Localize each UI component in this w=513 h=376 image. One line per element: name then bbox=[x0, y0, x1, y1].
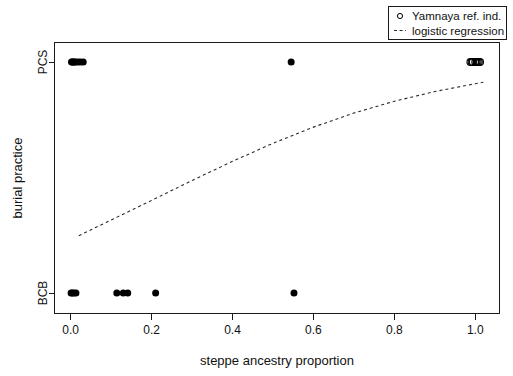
data-point bbox=[290, 290, 297, 297]
legend: Yamnaya ref. ind. logistic regression bbox=[389, 7, 507, 40]
logistic-regression-curve bbox=[79, 82, 484, 235]
data-point bbox=[80, 59, 87, 66]
data-point bbox=[124, 290, 131, 297]
x-axis-title: steppe ancestry proportion bbox=[200, 353, 354, 368]
x-tick-label: 0.0 bbox=[62, 323, 79, 337]
scatter-plot: 0.00.20.40.60.81.0 BCBPCS steppe ancestr… bbox=[0, 0, 513, 376]
x-tick-label: 1.0 bbox=[467, 323, 484, 337]
y-tick-label: PCS bbox=[36, 50, 50, 75]
x-axis-title-text: steppe ancestry proportion bbox=[200, 353, 354, 368]
yamnaya-reference-points bbox=[467, 59, 484, 66]
data-point bbox=[72, 290, 79, 297]
x-axis-ticks: 0.00.20.40.60.81.0 bbox=[62, 314, 484, 337]
data-point bbox=[288, 59, 295, 66]
x-tick-label: 0.8 bbox=[386, 323, 403, 337]
figure-container: 0.00.20.40.60.81.0 BCBPCS steppe ancestr… bbox=[0, 0, 513, 376]
x-tick-label: 0.2 bbox=[143, 323, 160, 337]
data-point bbox=[113, 290, 120, 297]
y-axis-title-text: burial practice bbox=[10, 138, 25, 219]
y-axis-title: burial practice bbox=[10, 138, 25, 219]
data-point bbox=[152, 290, 159, 297]
x-tick-label: 0.6 bbox=[305, 323, 322, 337]
observation-points bbox=[68, 59, 298, 297]
legend-label-regression: logistic regression bbox=[412, 25, 504, 37]
legend-label-yamnaya: Yamnaya ref. ind. bbox=[412, 10, 501, 22]
y-axis-ticks: BCBPCS bbox=[36, 50, 55, 306]
plot-frame bbox=[55, 43, 500, 314]
x-tick-label: 0.4 bbox=[224, 323, 241, 337]
y-tick-label: BCB bbox=[36, 281, 50, 306]
